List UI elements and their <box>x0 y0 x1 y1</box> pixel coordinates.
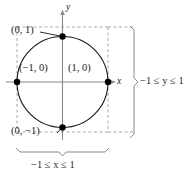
point-left <box>14 79 20 85</box>
point-label-bottom: (0, −1) <box>11 126 40 137</box>
point-right <box>105 79 111 85</box>
x-axis-label: x <box>117 77 121 87</box>
y-range-bracket-path <box>130 26 138 138</box>
leader-line-bottom <box>57 129 61 134</box>
y-axis-arrowhead <box>60 10 65 15</box>
y-range-bracket <box>130 26 138 138</box>
unit-circle-figure: (0, 1) (−1, 0) (1, 0) (0, −1) x y −1 ≤ y… <box>0 0 193 180</box>
x-range-bracket-path <box>16 148 109 156</box>
y-range-label: −1 ≤ y ≤ 1 <box>140 76 184 87</box>
leader-line-top <box>40 32 60 36</box>
point-top <box>59 33 65 39</box>
x-range-label: −1 ≤ x ≤ 1 <box>31 160 75 171</box>
y-axis-label: y <box>66 3 70 13</box>
point-label-left: (−1, 0) <box>19 63 48 74</box>
point-label-right: (1, 0) <box>68 63 91 74</box>
point-label-top: (0, 1) <box>11 25 34 36</box>
x-range-bracket <box>16 148 109 156</box>
